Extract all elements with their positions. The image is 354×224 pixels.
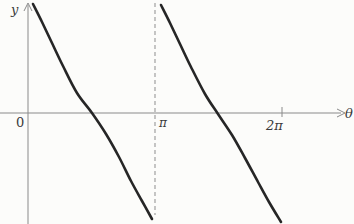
two-pi-tick-label: 2π bbox=[265, 118, 283, 133]
plot-canvas: y 0 π 2π θ bbox=[0, 0, 354, 224]
cot-curve-branch-1 bbox=[33, 4, 152, 219]
theta-axis-label: θ bbox=[345, 106, 353, 121]
origin-label: 0 bbox=[16, 115, 24, 130]
y-axis-label: y bbox=[10, 2, 19, 17]
pi-tick-label: π bbox=[158, 116, 168, 130]
cotangent-graph-figure: y 0 π 2π θ bbox=[0, 0, 354, 224]
